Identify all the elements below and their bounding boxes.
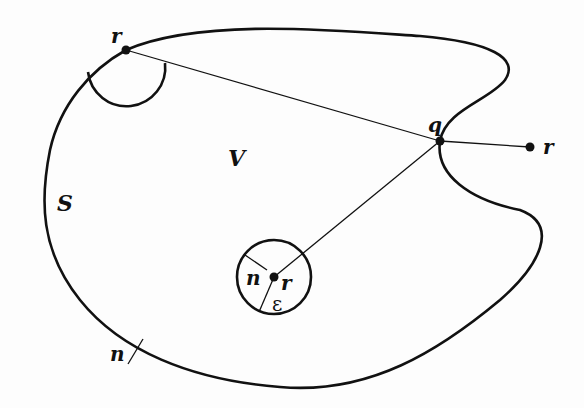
point-r-surface: [122, 46, 131, 55]
line-r-to-q: [126, 50, 440, 141]
label-n-surface: n: [110, 342, 125, 366]
point-q: [436, 137, 445, 146]
line-q-to-r-outside: [440, 141, 530, 147]
label-S: S: [57, 190, 73, 216]
diagram-svg: r q r r V S n ε n: [0, 0, 584, 408]
label-r-outside: r: [543, 135, 555, 159]
label-V: V: [228, 145, 247, 171]
label-epsilon: ε: [272, 292, 282, 316]
surface-S-curve: [44, 29, 541, 388]
label-r-surface: r: [111, 24, 123, 48]
label-n-sphere: n: [246, 266, 261, 290]
point-r-inside: [270, 273, 279, 282]
label-q: q: [428, 113, 442, 137]
line-q-to-r-inside: [274, 141, 440, 277]
point-r-outside: [526, 143, 535, 152]
label-r-inside: r: [281, 271, 293, 295]
diagram-canvas: r q r r V S n ε n: [0, 0, 584, 408]
